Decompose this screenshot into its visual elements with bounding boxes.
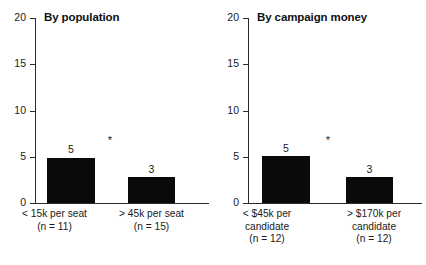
bar-left-2[interactable]: 3	[128, 177, 175, 203]
category-label-right-2-line2: candidate	[328, 221, 420, 234]
y-tick-10-left: 10	[30, 111, 35, 112]
category-label-right-2-line1: > $170k per	[328, 208, 420, 221]
y-tick-0-right: 0	[243, 203, 248, 204]
category-label-left-1: < 15k per seat (n = 11)	[12, 208, 97, 233]
category-label-right-1-line1: < $45k per	[222, 208, 312, 221]
category-label-left-1-line1: < 15k per seat	[12, 208, 97, 221]
category-label-right-2-line3: (n = 12)	[328, 233, 420, 246]
bar-left-1[interactable]: 5	[47, 158, 95, 203]
category-label-right-1: < $45k per candidate (n = 12)	[222, 208, 312, 246]
panel-by-population: By population 20 15 10 5 0 5	[0, 0, 213, 265]
y-tick-label-5-right: 5	[233, 151, 239, 162]
y-axis-line-right	[248, 18, 249, 203]
bar-value-left-2: 3	[149, 164, 155, 175]
bar-chart-figure: By population 20 15 10 5 0 5	[0, 0, 426, 265]
category-label-left-1-line2: (n = 11)	[12, 221, 97, 234]
y-axis-line-left	[35, 18, 36, 203]
y-tick-label-20-right: 20	[227, 12, 239, 23]
y-tick-label-0-left: 0	[20, 197, 26, 208]
y-tick-label-0-right: 0	[233, 197, 239, 208]
y-tick-label-5-left: 5	[20, 151, 26, 162]
y-tick-label-10-right: 10	[227, 105, 239, 116]
y-tick-0-left: 0	[30, 203, 35, 204]
significance-asterisk-right: *	[326, 135, 330, 146]
category-label-right-1-line3: (n = 12)	[222, 233, 312, 246]
y-tick-15-left: 15	[30, 64, 35, 65]
plot-area-right: 20 15 10 5 0 5 3 *	[248, 18, 422, 203]
y-tick-label-10-left: 10	[14, 105, 26, 116]
y-tick-5-left: 5	[30, 157, 35, 158]
y-tick-5-right: 5	[243, 157, 248, 158]
bar-value-right-2: 3	[367, 164, 373, 175]
category-label-right-2: > $170k per candidate (n = 12)	[328, 208, 420, 246]
bar-value-right-1: 5	[283, 143, 289, 154]
significance-asterisk-left: *	[108, 135, 112, 146]
x-axis-line-right	[248, 203, 422, 204]
bar-right-2[interactable]: 3	[346, 177, 393, 203]
y-tick-10-right: 10	[243, 111, 248, 112]
plot-area-left: 20 15 10 5 0 5 3 *	[35, 18, 209, 203]
x-axis-line-left	[35, 203, 209, 204]
category-label-left-2-line1: > 45k per seat	[109, 208, 194, 221]
panel-by-campaign-money: By campaign money 20 15 10 5 0 5	[213, 0, 426, 265]
category-label-right-1-line2: candidate	[222, 221, 312, 234]
bar-value-left-1: 5	[68, 144, 74, 155]
y-tick-20-right: 20	[243, 18, 248, 19]
category-label-left-2: > 45k per seat (n = 15)	[109, 208, 194, 233]
category-label-left-2-line2: (n = 15)	[109, 221, 194, 234]
y-tick-label-15-right: 15	[227, 59, 239, 69]
y-tick-label-20-left: 20	[14, 12, 26, 23]
y-tick-15-right: 15	[243, 64, 248, 65]
y-tick-20-left: 20	[30, 18, 35, 19]
y-tick-label-15-left: 15	[14, 59, 26, 69]
bar-right-1[interactable]: 5	[262, 156, 310, 203]
